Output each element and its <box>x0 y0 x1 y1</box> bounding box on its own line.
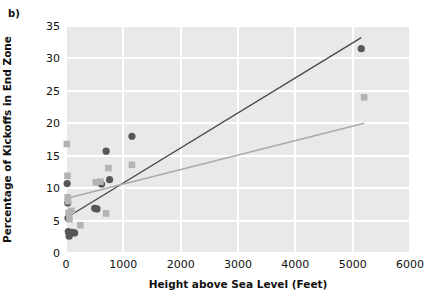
data-point-square <box>64 173 71 180</box>
data-point-circle <box>103 148 110 155</box>
y-tick-label: 0 <box>53 247 60 260</box>
x-tick-label: 3000 <box>224 258 252 271</box>
data-marks <box>66 26 410 253</box>
trend-line <box>66 123 364 198</box>
y-tick-label: 10 <box>46 182 60 195</box>
y-tick-label: 5 <box>53 214 60 227</box>
data-point-square <box>64 141 71 148</box>
data-point-square <box>129 161 136 168</box>
data-point-circle <box>71 229 78 236</box>
y-tick-label: 35 <box>46 20 60 33</box>
x-axis-label: Height above Sea Level (Feet) <box>66 278 410 290</box>
y-tick-label: 15 <box>46 149 60 162</box>
data-point-square <box>361 94 368 101</box>
data-point-circle <box>106 176 113 183</box>
x-tick-label: 1000 <box>109 258 137 271</box>
y-axis-label: Percentage of Kickoffs in End Zone <box>0 26 14 253</box>
x-tick-label: 5000 <box>339 258 367 271</box>
y-tick-label: 20 <box>46 117 60 130</box>
data-point-circle <box>93 205 100 212</box>
x-axis-ticks: 0100020003000400050006000 <box>66 258 410 274</box>
trend-line <box>66 38 361 218</box>
data-point-square <box>68 208 75 215</box>
data-point-square <box>77 222 84 229</box>
data-point-circle <box>128 133 135 140</box>
data-point-circle <box>358 45 365 52</box>
panel-label: b) <box>8 8 20 19</box>
figure: b) 05101520253035 0100020003000400050006… <box>0 0 428 303</box>
data-point-square <box>65 198 72 205</box>
data-point-square <box>66 216 73 223</box>
y-tick-label: 30 <box>46 52 60 65</box>
data-point-square <box>103 210 110 217</box>
x-tick-label: 4000 <box>281 258 309 271</box>
data-point-circle <box>64 180 71 187</box>
x-tick-label: 0 <box>63 258 70 271</box>
data-point-square <box>97 178 104 185</box>
x-tick-label: 6000 <box>396 258 424 271</box>
data-point-square <box>105 165 112 172</box>
x-tick-label: 2000 <box>167 258 195 271</box>
plot-area <box>66 26 410 253</box>
y-tick-label: 25 <box>46 84 60 97</box>
